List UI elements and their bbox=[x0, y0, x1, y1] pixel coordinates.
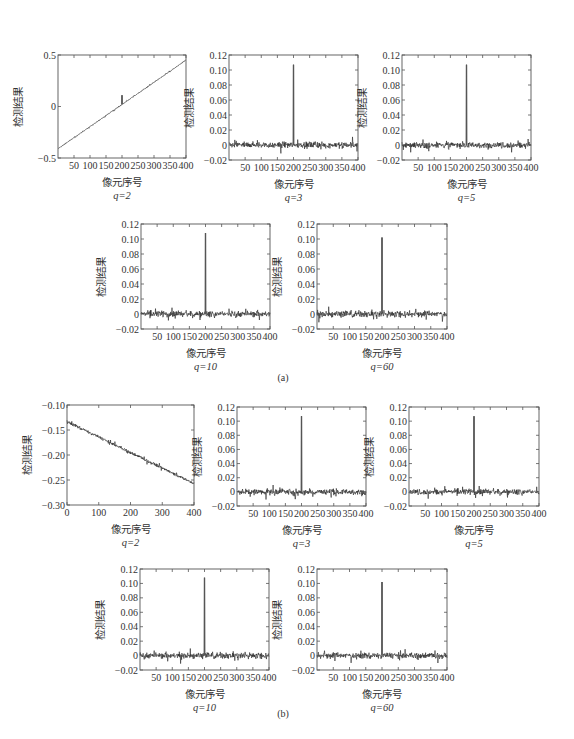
y-tick-label: 0.12 bbox=[298, 564, 316, 575]
y-tick-label: −0.02 bbox=[292, 665, 315, 676]
x-tick-label: 350 bbox=[342, 508, 357, 519]
y-axis-label: 检测结果 bbox=[363, 436, 375, 477]
chart-6: 0100200300400−0.30−0.25−0.20−0.15−0.10像元… bbox=[21, 400, 202, 549]
q-label: q=60 bbox=[371, 702, 395, 713]
x-tick-label: 200 bbox=[198, 331, 213, 342]
q-label: q=3 bbox=[285, 192, 303, 203]
y-tick-label: 0.02 bbox=[218, 472, 236, 483]
x-tick-label: 200 bbox=[294, 508, 309, 519]
x-tick-label: 300 bbox=[230, 331, 245, 342]
y-tick-label: −0.15 bbox=[42, 425, 65, 436]
y-tick-label: −0.02 bbox=[115, 665, 138, 676]
x-tick-label: 300 bbox=[499, 508, 514, 519]
x-tick-label: 150 bbox=[443, 162, 458, 173]
x-tick-label: 400 bbox=[187, 507, 202, 518]
y-tick-label: 0.02 bbox=[121, 636, 139, 647]
y-tick-label: 0.02 bbox=[390, 472, 408, 483]
y-tick-label: −0.30 bbox=[42, 500, 65, 511]
x-tick-label: 250 bbox=[391, 331, 406, 342]
q-label: q=2 bbox=[122, 537, 140, 548]
y-tick-label: 0.02 bbox=[298, 636, 316, 647]
panel-label-b: (b) bbox=[277, 708, 289, 720]
x-tick-label: 200 bbox=[123, 507, 138, 518]
y-tick-label: 0.08 bbox=[210, 80, 228, 91]
x-tick-label: 400 bbox=[263, 331, 278, 342]
x-tick-label: 250 bbox=[475, 162, 490, 173]
x-tick-label: 150 bbox=[182, 331, 197, 342]
y-tick-label: 0.06 bbox=[383, 95, 401, 106]
y-axis-label: 检测结果 bbox=[271, 599, 283, 640]
y-axis-label: 检测结果 bbox=[191, 436, 203, 477]
x-tick-label: 50 bbox=[152, 331, 162, 342]
x-tick-label: 200 bbox=[115, 160, 130, 171]
x-tick-label: 100 bbox=[342, 672, 357, 683]
x-tick-label: 400 bbox=[524, 162, 539, 173]
y-tick-label: 0.10 bbox=[298, 578, 316, 589]
x-tick-label: 50 bbox=[240, 162, 250, 173]
chart-7: 50100150200250300350400−0.0200.020.040.0… bbox=[191, 402, 374, 550]
x-tick-label: 100 bbox=[91, 507, 106, 518]
x-tick-label: 400 bbox=[532, 508, 547, 519]
y-axis-label: 检测结果 bbox=[95, 256, 107, 297]
x-tick-label: 350 bbox=[245, 672, 260, 683]
x-tick-label: 200 bbox=[197, 672, 212, 683]
y-tick-label: 0.12 bbox=[122, 219, 140, 230]
y-tick-label: 0.5 bbox=[44, 50, 57, 61]
y-tick-label: 0.12 bbox=[121, 564, 139, 575]
y-axis-label: 检测结果 bbox=[94, 599, 106, 640]
y-tick-label: 0.06 bbox=[121, 607, 139, 618]
y-axis-label: 检测结果 bbox=[21, 434, 33, 475]
y-tick-label: 0.10 bbox=[210, 65, 228, 76]
y-tick-label: −0.02 bbox=[384, 501, 407, 512]
y-tick-label: −0.02 bbox=[212, 501, 235, 512]
y-tick-label: 0.08 bbox=[122, 249, 140, 260]
x-tick-label: 100 bbox=[254, 162, 269, 173]
y-tick-label: 0.10 bbox=[298, 234, 316, 245]
x-axis-label: 像元序号 bbox=[111, 523, 151, 535]
x-axis-label: 像元序号 bbox=[102, 176, 142, 188]
q-label: q=10 bbox=[194, 361, 218, 372]
y-axis-label: 检测结果 bbox=[183, 87, 195, 128]
x-tick-label: 300 bbox=[491, 162, 506, 173]
x-tick-label: 350 bbox=[334, 162, 349, 173]
x-tick-label: 200 bbox=[375, 672, 390, 683]
y-axis-label: 检测结果 bbox=[271, 256, 283, 297]
y-tick-label: 0.04 bbox=[383, 110, 401, 121]
y-tick-label: 0.08 bbox=[121, 592, 139, 603]
y-tick-label: 0.04 bbox=[122, 279, 140, 290]
x-tick-label: 100 bbox=[427, 162, 442, 173]
x-tick-label: 50 bbox=[420, 508, 430, 519]
y-tick-label: 0.08 bbox=[390, 430, 408, 441]
x-tick-label: 100 bbox=[434, 508, 449, 519]
y-tick-label: 0 bbox=[51, 101, 56, 112]
x-tick-label: 150 bbox=[270, 162, 285, 173]
y-tick-label: 0 bbox=[310, 309, 315, 320]
x-axis-label: 像元序号 bbox=[274, 178, 314, 190]
chart-9: 50100150200250300350400−0.0200.020.040.0… bbox=[94, 564, 277, 714]
x-tick-label: 300 bbox=[326, 508, 341, 519]
y-tick-label: 0.06 bbox=[298, 607, 316, 618]
y-tick-label: 0.06 bbox=[298, 264, 316, 275]
y-tick-label: 0 bbox=[222, 140, 227, 151]
q-label: q=3 bbox=[293, 538, 311, 549]
x-tick-label: 250 bbox=[310, 508, 325, 519]
x-tick-label: 350 bbox=[423, 672, 438, 683]
plot-frame bbox=[67, 405, 194, 505]
y-tick-label: 0.08 bbox=[298, 249, 316, 260]
x-tick-label: 400 bbox=[440, 672, 455, 683]
y-tick-label: 0.10 bbox=[121, 578, 139, 589]
y-tick-label: 0.06 bbox=[122, 264, 140, 275]
x-tick-label: 50 bbox=[413, 162, 423, 173]
x-tick-label: 150 bbox=[450, 508, 465, 519]
y-tick-label: 0.04 bbox=[218, 458, 236, 469]
x-axis-label: 像元序号 bbox=[282, 524, 322, 536]
y-tick-label: 0.02 bbox=[122, 294, 140, 305]
x-tick-label: 50 bbox=[151, 672, 161, 683]
y-tick-label: −0.02 bbox=[116, 324, 139, 335]
chart-1: 50100150200250300350400−0.500.5像元序号q=2检测… bbox=[12, 50, 194, 202]
chart-2: 50100150200250300350400−0.0200.020.040.0… bbox=[183, 50, 366, 204]
x-tick-label: 300 bbox=[407, 672, 422, 683]
x-tick-label: 150 bbox=[278, 508, 293, 519]
x-tick-label: 400 bbox=[179, 160, 194, 171]
x-tick-label: 200 bbox=[459, 162, 474, 173]
